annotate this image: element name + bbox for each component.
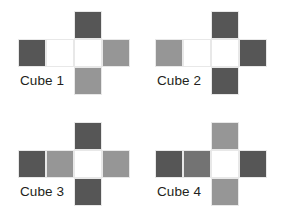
net-spacer [102,67,130,95]
net-spacer [239,67,267,95]
cube-label: Cube 2 [157,73,201,89]
net-spacer [239,122,267,150]
net-spacer [155,11,183,39]
face-top [211,11,239,39]
face-row-2 [211,39,239,67]
cube-nets-figure: Cube 1 Cube 2 [0,0,286,223]
cube-label: Cube 1 [20,73,64,89]
net-spacer [239,11,267,39]
face-row-0 [18,150,46,178]
face-row-3 [102,39,130,67]
net-spacer [239,178,267,206]
net-spacer [46,122,74,150]
net-spacer [102,11,130,39]
cube-label: Cube 3 [20,184,64,200]
face-bottom [74,67,102,95]
face-row-1 [46,39,74,67]
face-bottom [211,67,239,95]
face-top [74,11,102,39]
face-bottom [74,178,102,206]
net-spacer [18,11,46,39]
face-row-3 [239,150,267,178]
face-row-3 [102,150,130,178]
face-bottom [211,178,239,206]
cube-label: Cube 4 [157,184,201,200]
face-top [74,122,102,150]
net-spacer [102,178,130,206]
net-spacer [183,11,211,39]
face-row-0 [155,39,183,67]
face-row-2 [74,150,102,178]
face-row-2 [211,150,239,178]
net-spacer [155,122,183,150]
net-spacer [46,11,74,39]
face-row-1 [46,150,74,178]
face-row-1 [183,150,211,178]
face-top [211,122,239,150]
net-spacer [102,122,130,150]
face-row-0 [18,39,46,67]
face-row-2 [74,39,102,67]
face-row-0 [155,150,183,178]
face-row-3 [239,39,267,67]
net-spacer [183,122,211,150]
face-row-1 [183,39,211,67]
net-spacer [18,122,46,150]
